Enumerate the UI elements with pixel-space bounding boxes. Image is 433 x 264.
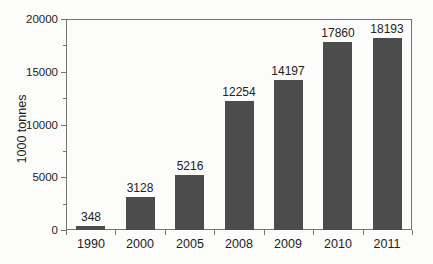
x-tick [115,230,116,235]
x-tick [313,230,314,235]
y-minor-tick [63,45,66,46]
y-tick [61,72,66,73]
y-tick-label: 15000 [0,65,58,79]
y-minor-tick [63,98,66,99]
y-tick [61,19,66,20]
x-tick [264,230,265,235]
bar [76,226,105,230]
bar [373,38,402,230]
x-tick [214,230,215,235]
x-category-label: 2011 [357,237,417,251]
y-tick-label: 0 [0,223,58,237]
y-tick [61,177,66,178]
bar [225,101,254,230]
bar [126,197,155,230]
bar-value-label: 12254 [207,85,271,99]
y-tick-label: 10000 [0,118,58,132]
x-tick [66,230,67,235]
y-tick [61,125,66,126]
bar-value-label: 3128 [108,181,172,195]
bar [323,42,352,230]
x-tick [363,230,364,235]
bar-value-label: 14197 [256,64,320,78]
x-tick [165,230,166,235]
y-tick-label: 5000 [0,170,58,184]
bar [274,80,303,230]
bar-value-label: 18193 [355,22,419,36]
x-tick [412,230,413,235]
bar [175,175,204,230]
y-minor-tick [63,204,66,205]
bar-value-label: 5216 [158,159,222,173]
bar-value-label: 348 [59,210,123,224]
y-tick-label: 20000 [0,12,58,26]
bar-chart-figure: 1000 tonnes 0500010000150002000034819903… [0,0,433,264]
y-minor-tick [63,151,66,152]
